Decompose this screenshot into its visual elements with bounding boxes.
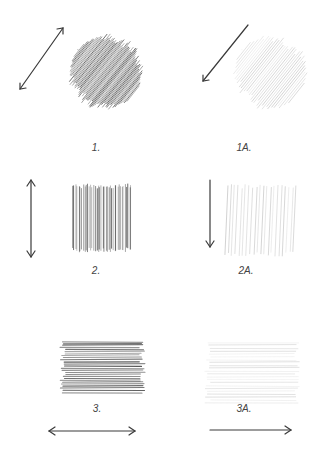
arrow-3a-right — [210, 426, 291, 434]
hatch-light-horizontal — [205, 343, 299, 403]
arrow-1-double — [20, 28, 63, 89]
hatch-light-diagonal — [234, 36, 307, 109]
arrow-1a-down-left — [203, 25, 248, 81]
label-3a: 3A. — [236, 403, 251, 414]
arrow-2a-down — [206, 180, 214, 247]
hatch-dark-vertical — [73, 184, 131, 252]
label-1a: 1A. — [236, 142, 251, 153]
hatch-dark-diagonal — [70, 34, 143, 109]
label-2a: 2A. — [238, 265, 253, 276]
hatching-diagram — [0, 0, 322, 458]
arrow-3-double — [49, 427, 135, 435]
hatch-dark-horizontal — [60, 342, 145, 393]
arrow-2-double — [27, 180, 35, 257]
label-1: 1. — [92, 142, 100, 153]
hatch-light-vertical — [225, 185, 296, 256]
label-3: 3. — [93, 403, 101, 414]
label-2: 2. — [92, 265, 100, 276]
